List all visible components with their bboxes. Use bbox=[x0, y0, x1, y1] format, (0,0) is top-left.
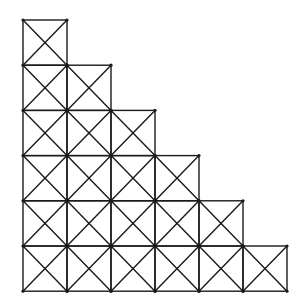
vertex-dot bbox=[21, 199, 24, 202]
vertex-dot bbox=[109, 154, 112, 157]
vertex-dot bbox=[241, 199, 244, 202]
vertex-dot bbox=[197, 199, 200, 202]
grid-cell bbox=[23, 110, 67, 155]
vertex-dot bbox=[21, 18, 24, 21]
vertex-dot bbox=[153, 244, 156, 247]
vertex-dot bbox=[65, 109, 68, 112]
vertex-dot bbox=[285, 290, 288, 293]
grid-cell bbox=[111, 201, 155, 246]
vertex-dot bbox=[153, 199, 156, 202]
vertex-dot bbox=[21, 244, 24, 247]
vertex-dot bbox=[109, 109, 112, 112]
vertex-dot bbox=[65, 154, 68, 157]
vertex-dot bbox=[65, 290, 68, 293]
vertex-dot bbox=[109, 199, 112, 202]
grid-cell bbox=[111, 110, 155, 155]
grid-cell bbox=[23, 246, 67, 291]
grid-cell bbox=[23, 201, 67, 246]
grid-cell bbox=[155, 246, 199, 291]
grid-cell bbox=[23, 156, 67, 201]
vertex-dot bbox=[109, 290, 112, 293]
grid-cell bbox=[67, 201, 111, 246]
grid-cell bbox=[155, 201, 199, 246]
vertex-dot bbox=[109, 64, 112, 67]
vertex-dot bbox=[197, 154, 200, 157]
grid-cell bbox=[199, 246, 243, 291]
vertex-dot bbox=[153, 290, 156, 293]
vertex-dot bbox=[197, 290, 200, 293]
vertex-dot bbox=[197, 244, 200, 247]
grid-cell bbox=[67, 65, 111, 110]
vertex-dot bbox=[241, 290, 244, 293]
grid-cell bbox=[67, 156, 111, 201]
vertex-dot bbox=[65, 18, 68, 21]
vertex-dot bbox=[65, 64, 68, 67]
vertex-dot bbox=[153, 109, 156, 112]
grid-cell bbox=[67, 246, 111, 291]
grid-cell bbox=[23, 65, 67, 110]
vertex-dot bbox=[21, 109, 24, 112]
vertex-dot bbox=[21, 64, 24, 67]
grid-cells bbox=[21, 18, 288, 292]
vertex-dot bbox=[241, 244, 244, 247]
grid-cell bbox=[155, 156, 199, 201]
grid-cell bbox=[111, 246, 155, 291]
vertex-dot bbox=[285, 244, 288, 247]
vertex-dot bbox=[65, 244, 68, 247]
grid-cell bbox=[23, 20, 67, 65]
vertex-dot bbox=[21, 290, 24, 293]
vertex-dot bbox=[109, 244, 112, 247]
grid-cell bbox=[111, 156, 155, 201]
vertex-dot bbox=[65, 199, 68, 202]
vertex-dot bbox=[21, 154, 24, 157]
grid-cell bbox=[199, 201, 243, 246]
staircase-diagram bbox=[0, 0, 304, 307]
grid-cell bbox=[243, 246, 287, 291]
vertex-dot bbox=[153, 154, 156, 157]
grid-cell bbox=[67, 110, 111, 155]
